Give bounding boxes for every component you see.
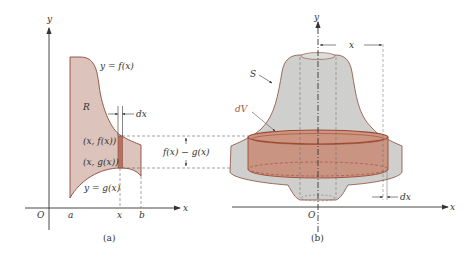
tick-a-label: a xyxy=(68,210,73,220)
origin-label-b: O xyxy=(308,210,316,220)
caption-a: (a) xyxy=(103,233,115,243)
panel-a: y x O a x b y = f(x) y = g(x) R dx (x, f… xyxy=(25,14,248,243)
curve-g-label: y = g(x) xyxy=(83,183,121,193)
dv-label: dV xyxy=(235,104,249,114)
point-f-label: (x, f(x)) xyxy=(83,136,117,146)
tick-x-label: x xyxy=(117,210,122,220)
point-g-label: (x, g(x)) xyxy=(83,157,119,167)
dx-label-b: dx xyxy=(400,192,411,202)
region-label: R xyxy=(82,102,90,112)
y-axis-label-a: y xyxy=(46,14,53,24)
height-label: f(x) − g(x) xyxy=(162,147,210,157)
solid-label: S xyxy=(250,69,256,79)
figure-canvas: y x O a x b y = f(x) y = g(x) R dx (x, f… xyxy=(0,0,468,257)
dx-label-a: dx xyxy=(136,109,147,119)
origin-label-a: O xyxy=(37,210,45,220)
x-axis-label-a: x xyxy=(183,203,188,213)
region-r xyxy=(70,57,141,198)
y-axis-label-b: y xyxy=(313,12,320,22)
x-axis-label-b: x xyxy=(450,202,455,212)
caption-b: (b) xyxy=(311,233,324,243)
panel-b: y x O x S dV dx (b) xyxy=(230,12,455,243)
tick-b-label: b xyxy=(139,210,145,220)
radius-label: x xyxy=(349,40,354,50)
curve-f-label: y = f(x) xyxy=(99,61,134,71)
